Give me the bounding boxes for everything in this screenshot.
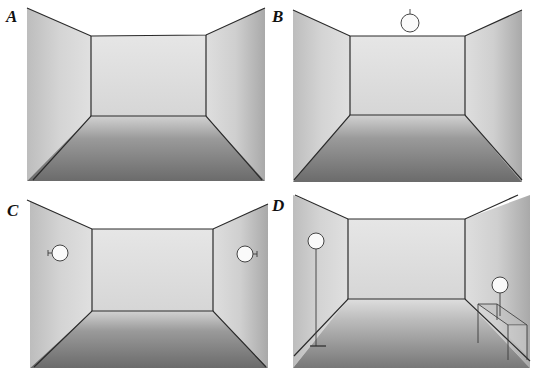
panel-label-a: A <box>5 7 17 26</box>
back-wall <box>350 36 465 115</box>
panel-label-b: B <box>271 7 283 26</box>
panel-label-c: C <box>7 201 19 220</box>
panel-c: C <box>7 200 268 368</box>
panel-d: D <box>271 195 530 368</box>
panel-a: A <box>5 7 265 181</box>
back-wall <box>91 35 206 116</box>
room-lighting-figure: A B C <box>0 0 540 379</box>
panel-label-d: D <box>271 196 284 215</box>
panel-b: B <box>271 7 522 182</box>
back-wall <box>92 229 213 311</box>
back-wall <box>348 219 465 299</box>
pendant-lamp-icon <box>401 9 419 32</box>
